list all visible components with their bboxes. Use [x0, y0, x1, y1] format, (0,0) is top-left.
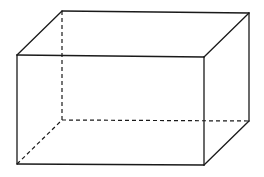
edge-back-top — [62, 11, 249, 13]
edge-bottom-right-depth — [204, 121, 249, 165]
hidden-edge-bottom-left-depth — [17, 120, 62, 164]
edge-top-left-depth — [17, 11, 62, 55]
edge-front-top — [17, 55, 204, 57]
edge-top-right-depth — [204, 13, 249, 57]
hidden-edge-back-bottom — [62, 120, 249, 121]
cuboid-diagram — [0, 0, 264, 177]
edge-front-bottom — [17, 164, 204, 165]
